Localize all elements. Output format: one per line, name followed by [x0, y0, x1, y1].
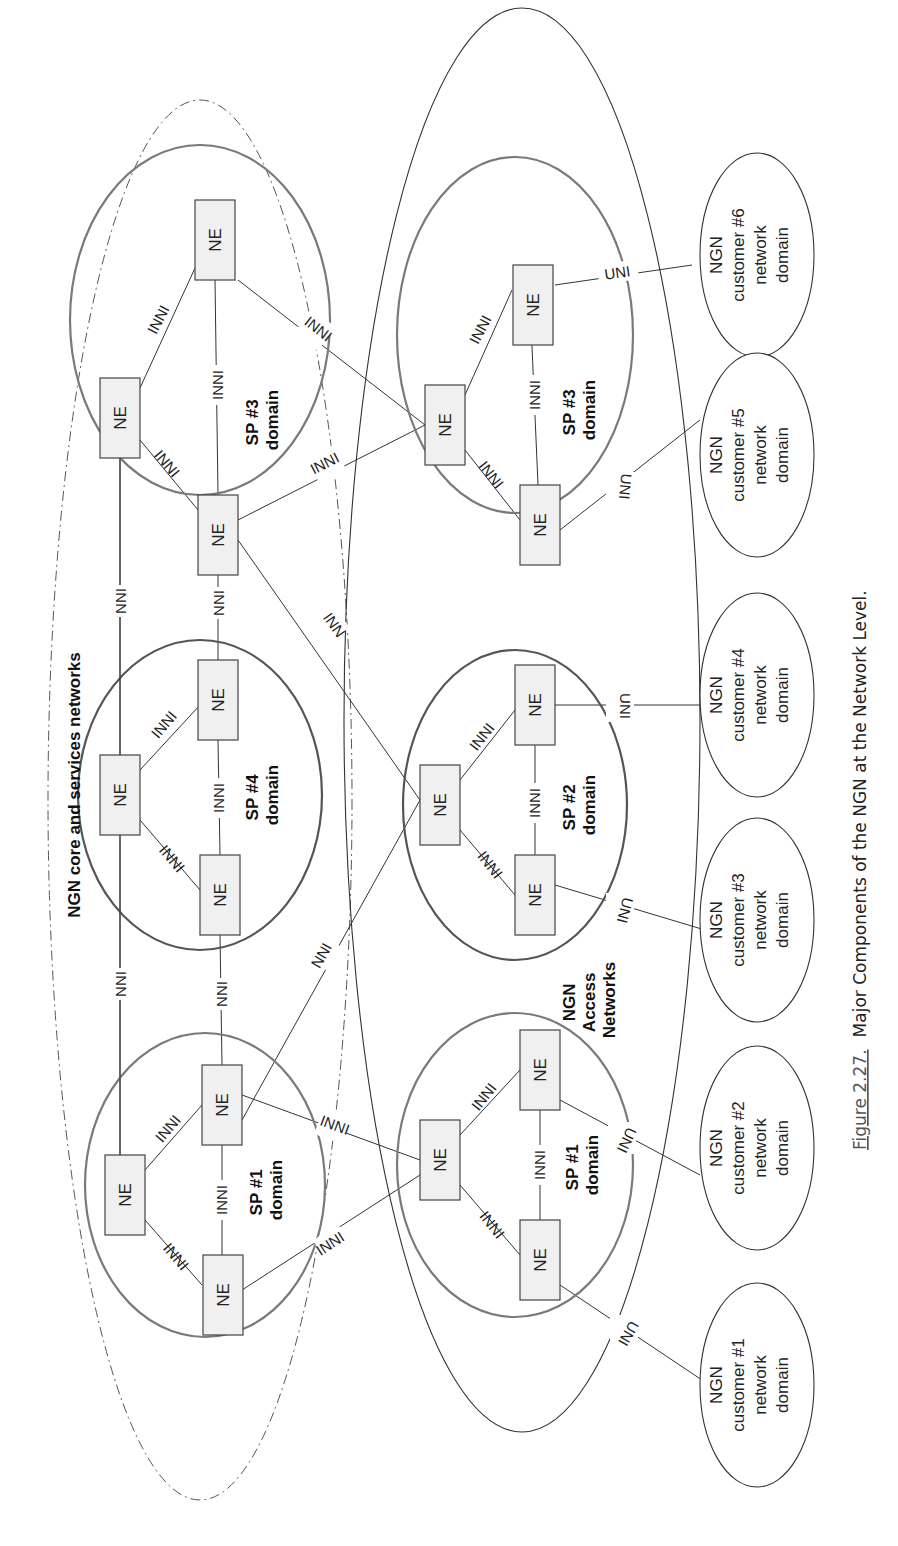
ne-node[interactable]: NE [420, 1120, 460, 1200]
ne-node[interactable]: NE [420, 765, 460, 845]
core-sp3-label: SP #3 domain [243, 390, 282, 450]
ngn-network-diagram: NE NE NE NE NE NE NE NE NE NE NE NE NE N… [0, 0, 898, 1546]
inni-label: INNI [526, 788, 543, 818]
links [120, 265, 705, 1380]
figure-number: Figure 2.27. [850, 1049, 870, 1150]
access-sp2-label: SP #2 domain [560, 775, 599, 835]
ne-node[interactable]: NE [100, 378, 140, 458]
inni-label: INNI [475, 458, 507, 492]
inni-label: INNI [213, 1185, 230, 1215]
svg-text:NE: NE [436, 413, 455, 437]
ne-node[interactable]: NE [202, 1065, 242, 1145]
access-sp3-label: SP #3 domain [560, 380, 599, 440]
inni-label: INNI [148, 708, 180, 742]
ne-node[interactable]: NE [203, 1255, 243, 1335]
customer-domains: NGNcustomer #6networkdomain NGNcustomer … [700, 153, 814, 1487]
inni-label: INNI [144, 302, 173, 336]
nni-label: NNI [213, 981, 230, 1007]
ne-node[interactable]: NE [513, 265, 553, 345]
inni-link [238, 540, 420, 800]
ne-node[interactable]: NE [520, 1030, 560, 1110]
svg-text:NE: NE [431, 793, 450, 817]
ne-node[interactable]: NE [520, 1220, 560, 1300]
svg-text:NE: NE [209, 688, 228, 712]
ne-node[interactable]: NE [200, 855, 240, 935]
ne-node[interactable]: NE [105, 1155, 145, 1235]
ne-node[interactable]: NE [100, 755, 140, 835]
core-network-region [48, 100, 352, 1500]
customer-3-domain[interactable]: NGNcustomer #3networkdomain [700, 818, 814, 1022]
svg-text:NE: NE [531, 1058, 550, 1082]
ne-node[interactable]: NE [425, 385, 465, 465]
ne-node[interactable]: NE [198, 660, 238, 740]
nni-label: NNI [210, 590, 227, 616]
inni-label: INNI [526, 380, 543, 410]
inni-label: INNI [476, 1208, 508, 1242]
inni-label: INNI [466, 720, 498, 754]
ne-node[interactable]: NE [515, 665, 555, 745]
svg-text:NE: NE [531, 1248, 550, 1272]
svg-text:NE: NE [531, 513, 550, 537]
svg-text:NE: NE [111, 783, 130, 807]
customer-4-domain[interactable]: NGNcustomer #4networkdomain [700, 593, 814, 797]
uni-label: UNI [603, 262, 631, 282]
svg-text:NE: NE [214, 1283, 233, 1307]
nni-label: NNI [112, 588, 129, 614]
svg-text:NE: NE [209, 523, 228, 547]
ne-node[interactable]: NE [520, 485, 560, 565]
core-sp4-label: SP #4 domain [243, 765, 282, 825]
ne-node[interactable]: NE [515, 855, 555, 935]
inni-label: INNI [209, 370, 226, 400]
svg-text:NE: NE [213, 1093, 232, 1117]
ne-node[interactable]: NE [195, 200, 235, 280]
core-sp1-label: SP #1 domain [247, 1160, 286, 1220]
uni-label: UNI [617, 693, 634, 719]
uni-label: UNI [616, 473, 635, 500]
access-region-label: NGN Access Networks [560, 962, 619, 1039]
inni-label: INNI [152, 1112, 184, 1146]
svg-text:NE: NE [211, 883, 230, 907]
svg-text:NE: NE [206, 228, 225, 252]
figure-caption: Figure 2.27. Major Components of the NGN… [850, 590, 870, 1150]
svg-text:NE: NE [111, 406, 130, 430]
svg-text:NE: NE [524, 293, 543, 317]
inni-label: INNI [151, 447, 183, 481]
core-region-label: NGN core and services networks [65, 652, 84, 918]
svg-text:NE: NE [526, 693, 545, 717]
svg-text:NE: NE [431, 1148, 450, 1172]
inni-label: INNI [210, 783, 227, 813]
svg-text:NE: NE [116, 1183, 135, 1207]
figure-title: Major Components of the NGN at the Netwo… [850, 590, 870, 1037]
svg-text:NE: NE [526, 883, 545, 907]
customer-2-domain[interactable]: NGNcustomer #2networkdomain [700, 1046, 814, 1250]
nni-label: NNI [112, 971, 129, 997]
customer-1-domain[interactable]: NGNcustomer #1networkdomain [700, 1283, 814, 1487]
ne-node[interactable]: NE [198, 495, 238, 575]
inni-label: INNI [531, 1150, 548, 1180]
customer-5-domain[interactable]: NGNcustomer #5networkdomain [700, 353, 814, 557]
inni-label: INNI [466, 312, 495, 346]
customer-6-domain[interactable]: NGNcustomer #6networkdomain [700, 153, 814, 357]
access-sp1-label: SP #1 domain [563, 1135, 602, 1195]
